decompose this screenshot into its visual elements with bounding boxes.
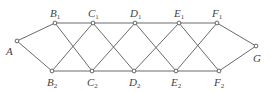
node-d1 bbox=[133, 21, 137, 25]
edge-a-b2 bbox=[17, 41, 52, 71]
nodes-layer bbox=[15, 21, 258, 73]
label-b1: B1 bbox=[50, 7, 61, 21]
edge-e2-f1 bbox=[176, 23, 217, 71]
label-d2: D2 bbox=[128, 76, 141, 90]
edge-f1-g bbox=[217, 23, 256, 46]
label-b2: B2 bbox=[47, 76, 58, 90]
label-e1: E1 bbox=[173, 7, 185, 21]
node-a bbox=[15, 39, 19, 43]
edge-c2-d1 bbox=[92, 23, 135, 71]
label-f2: F2 bbox=[213, 76, 225, 90]
labels-layer: AB1B2C1C2D1D2E1E2F1F2G bbox=[5, 7, 261, 90]
label-e2: E2 bbox=[170, 76, 182, 90]
label-subscript: 2 bbox=[178, 82, 182, 90]
node-f1 bbox=[215, 21, 219, 25]
label-d1: D1 bbox=[129, 7, 142, 21]
edge-a-b1 bbox=[17, 23, 55, 41]
label-subscript: 2 bbox=[94, 82, 98, 90]
label-subscript: 1 bbox=[219, 13, 223, 21]
label-subscript: 1 bbox=[181, 13, 185, 21]
node-b2 bbox=[50, 69, 54, 73]
edge-f2-g bbox=[219, 46, 256, 71]
edges-layer bbox=[17, 23, 256, 71]
label-subscript: 1 bbox=[57, 13, 61, 21]
node-b1 bbox=[53, 21, 57, 25]
label-subscript: 1 bbox=[95, 13, 99, 21]
label-c2: C2 bbox=[87, 76, 98, 90]
label-c1: C1 bbox=[88, 7, 99, 21]
label-subscript: 2 bbox=[137, 82, 141, 90]
label-subscript: 1 bbox=[138, 13, 142, 21]
edge-e1-f2 bbox=[179, 23, 219, 71]
node-c2 bbox=[90, 69, 94, 73]
node-e1 bbox=[177, 21, 181, 25]
label-g: G bbox=[253, 52, 261, 64]
node-c1 bbox=[91, 21, 95, 25]
node-g bbox=[254, 44, 258, 48]
node-e2 bbox=[174, 69, 178, 73]
node-f2 bbox=[217, 69, 221, 73]
label-a: A bbox=[5, 45, 13, 57]
label-f1: F1 bbox=[211, 7, 223, 21]
node-d2 bbox=[132, 69, 136, 73]
label-subscript: 2 bbox=[221, 82, 225, 90]
graph-diagram: AB1B2C1C2D1D2E1E2F1F2G bbox=[0, 0, 273, 93]
label-subscript: 2 bbox=[54, 82, 58, 90]
